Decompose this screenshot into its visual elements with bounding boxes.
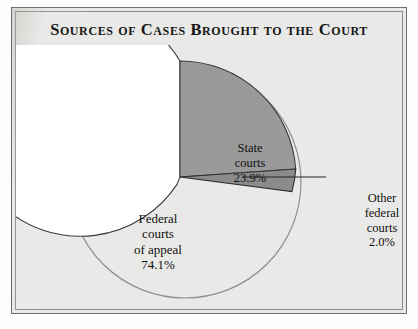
slice-label-line1: Federal bbox=[139, 211, 178, 226]
slice-label-federal-courts-of-appeal: Federal courts of appeal 74.1% bbox=[104, 211, 212, 272]
slice-label-line3: of appeal bbox=[134, 242, 182, 257]
slice-label-line3: courts bbox=[367, 221, 398, 235]
slice-value-federal-courts-of-appeal: 74.1% bbox=[104, 257, 212, 272]
chart-title: Sources of Cases Brought to the Court bbox=[16, 20, 402, 40]
slice-label-state-courts: State courts 23.9% bbox=[209, 141, 291, 185]
slice-label-line1: State bbox=[238, 141, 263, 155]
slice-value-state-courts: 23.9% bbox=[209, 171, 291, 186]
slice-label-other-federal-courts: Other federal courts 2.0% bbox=[341, 191, 418, 250]
pie-slice-federal-courts-of-appeal[interactable] bbox=[16, 45, 180, 236]
slice-label-line1: Other bbox=[368, 191, 396, 205]
pie-chart-figure: Sources of Cases Brought to the Court Fe… bbox=[0, 0, 418, 329]
pie-plot-area: Federal courts of appeal 74.1% State cou… bbox=[16, 45, 402, 307]
slice-label-line2: federal bbox=[365, 206, 400, 220]
slice-label-line2: courts bbox=[235, 156, 266, 170]
slice-value-other-federal-courts: 2.0% bbox=[341, 235, 418, 250]
slice-label-line2: courts bbox=[142, 226, 174, 241]
